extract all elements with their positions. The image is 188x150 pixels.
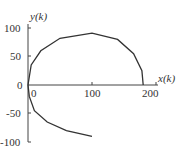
x-axis-label: x(k) — [157, 72, 175, 85]
y-tick-100: 100 — [4, 22, 21, 34]
y-tick-50: 50 — [10, 50, 22, 62]
x-tick-200: 200 — [142, 87, 159, 99]
chart: 100 50 0 -50 -100 0 100 200 y(k) x(k) — [0, 0, 188, 150]
y-tick-neg100: -100 — [0, 136, 21, 148]
y-tick-neg50: -50 — [6, 107, 21, 119]
y-tick-0: 0 — [17, 79, 23, 91]
x-tick-100: 100 — [84, 87, 101, 99]
plot: 100 50 0 -50 -100 0 100 200 y(k) x(k) — [0, 0, 188, 150]
y-axis-label: y(k) — [29, 10, 47, 23]
x-tick-0: 0 — [31, 87, 37, 99]
